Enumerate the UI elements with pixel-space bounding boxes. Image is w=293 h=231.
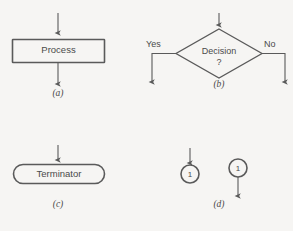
panel-caption-a: (a) <box>38 88 78 98</box>
flowchart-vector-layer <box>0 0 293 231</box>
decision-yes-branch <box>152 54 176 83</box>
connector-out-number: 1 <box>228 164 248 173</box>
process-label: Process <box>12 45 105 56</box>
decision-label: Decision <box>184 46 254 57</box>
decision-yes-label: Yes <box>146 39 161 49</box>
terminator-label: Terminator <box>13 169 105 180</box>
flowchart-symbols-figure: Process (a) Decision ? Yes No (b) Termin… <box>0 0 293 231</box>
panel-caption-d: (d) <box>199 199 239 209</box>
panel-caption-b: (b) <box>199 79 239 89</box>
panel-caption-c: (c) <box>38 199 78 209</box>
connector-in-number: 1 <box>180 170 200 179</box>
decision-no-branch <box>262 54 285 83</box>
decision-no-label: No <box>264 39 276 49</box>
decision-question-mark: ? <box>184 57 254 68</box>
cropped-figure-caption <box>0 225 293 231</box>
